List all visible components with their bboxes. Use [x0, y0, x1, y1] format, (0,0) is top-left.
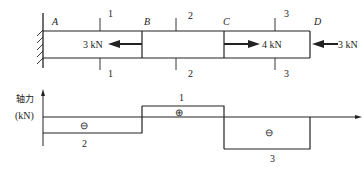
point-label-b: B [144, 16, 150, 27]
load-arrow-d [312, 40, 338, 48]
segment-label-ab: 2 [82, 138, 87, 149]
point-label-d: D [313, 16, 322, 27]
axial-ylabel-unit: (kN) [15, 110, 34, 122]
sign-cd: ⊖ [265, 127, 273, 138]
sign-ab: ⊖ [80, 120, 88, 131]
section-3-top: 3 [284, 8, 289, 19]
fixed-wall-support [37, 13, 43, 68]
segment-label-cd: 3 [270, 153, 275, 164]
section-2-top: 2 [188, 10, 193, 21]
section-1-bottom: 1 [108, 68, 113, 79]
load-arrow-b [108, 40, 142, 48]
section-3-bottom: 3 [284, 68, 289, 79]
load-arrow-c [224, 40, 260, 48]
load-label-c: 4 kN [262, 39, 282, 50]
segment-label-bc: 1 [179, 92, 184, 103]
load-label-b: 3 kN [83, 39, 103, 50]
load-label-d: 3 kN [338, 39, 358, 50]
axial-x-axis [43, 115, 362, 119]
sign-bc: ⊕ [175, 107, 183, 118]
axial-ylabel: 轴力 [16, 93, 34, 104]
section-1-top: 1 [108, 8, 113, 19]
point-label-a: A [51, 16, 59, 27]
point-label-c: C [223, 16, 230, 27]
beam-and-axial-diagram: A B C D 1 1 2 2 3 3 3 kN 4 kN 3 kN 轴力 (k… [0, 0, 364, 171]
section-2-bottom: 2 [188, 68, 193, 79]
